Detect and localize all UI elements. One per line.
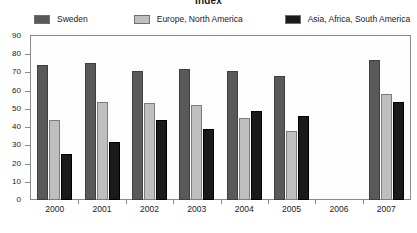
bar[interactable] bbox=[85, 63, 96, 200]
x-tick-label: 2004 bbox=[224, 204, 264, 214]
bar[interactable] bbox=[109, 142, 120, 200]
x-tick-label: 2003 bbox=[177, 204, 217, 214]
chart-legend: SwedenEurope, North AmericaAsia, Africa,… bbox=[30, 12, 410, 26]
y-tick-label: 10 bbox=[12, 178, 21, 186]
y-tick-label: 90 bbox=[12, 32, 21, 40]
bar[interactable] bbox=[156, 120, 167, 200]
bar[interactable] bbox=[251, 111, 262, 200]
y-tick-label: 50 bbox=[12, 105, 21, 113]
x-tick-mark bbox=[78, 200, 79, 204]
bar-group bbox=[31, 36, 78, 200]
plot-area bbox=[31, 36, 410, 200]
x-tick-label: 2006 bbox=[319, 204, 359, 214]
bar-group bbox=[126, 36, 173, 200]
bar[interactable] bbox=[144, 103, 155, 200]
bar[interactable] bbox=[37, 65, 48, 200]
bar-chart: Index SwedenEurope, North AmericaAsia, A… bbox=[0, 0, 417, 233]
bar[interactable] bbox=[298, 116, 309, 200]
bar[interactable] bbox=[274, 76, 285, 200]
bar[interactable] bbox=[97, 102, 108, 200]
y-tick-label: 30 bbox=[12, 141, 21, 149]
x-tick-mark bbox=[268, 200, 269, 204]
bar-group bbox=[78, 36, 125, 200]
y-tick-label: 0 bbox=[17, 196, 21, 204]
x-tick-label: 2002 bbox=[129, 204, 169, 214]
bar-group bbox=[363, 36, 410, 200]
legend-entry[interactable]: Asia, Africa, South America bbox=[285, 12, 411, 26]
y-tick-label: 20 bbox=[12, 160, 21, 168]
x-tick-mark bbox=[173, 200, 174, 204]
x-tick-mark bbox=[315, 200, 316, 204]
legend-label: Sweden bbox=[57, 14, 88, 24]
legend-entry[interactable]: Sweden bbox=[34, 12, 88, 26]
x-axis: 20002001200220032004200520062007 bbox=[31, 204, 410, 218]
y-tick-label: 80 bbox=[12, 50, 21, 58]
bar[interactable] bbox=[227, 71, 238, 200]
bar[interactable] bbox=[369, 60, 380, 200]
y-tick-label: 60 bbox=[12, 87, 21, 95]
bar[interactable] bbox=[49, 120, 60, 200]
legend-swatch-icon bbox=[285, 15, 301, 24]
bar[interactable] bbox=[239, 118, 250, 200]
bar-group bbox=[315, 36, 362, 200]
x-tick-mark bbox=[126, 200, 127, 204]
legend-label: Asia, Africa, South America bbox=[308, 14, 411, 24]
bar[interactable] bbox=[393, 102, 404, 200]
x-tick-label: 2007 bbox=[366, 204, 406, 214]
bar[interactable] bbox=[61, 154, 72, 200]
x-tick-label: 2000 bbox=[35, 204, 75, 214]
bar[interactable] bbox=[179, 69, 190, 200]
y-tick-label: 70 bbox=[12, 68, 21, 76]
x-tick-label: 2001 bbox=[82, 204, 122, 214]
legend-entry[interactable]: Europe, North America bbox=[134, 12, 243, 26]
bar-group bbox=[173, 36, 220, 200]
bar-group bbox=[221, 36, 268, 200]
bar[interactable] bbox=[381, 94, 392, 200]
bar-group bbox=[268, 36, 315, 200]
bar[interactable] bbox=[203, 129, 214, 200]
y-tick-label: 40 bbox=[12, 123, 21, 131]
legend-swatch-icon bbox=[34, 15, 50, 24]
x-tick-mark bbox=[221, 200, 222, 204]
x-tick-mark bbox=[363, 200, 364, 204]
bar[interactable] bbox=[132, 71, 143, 200]
bar[interactable] bbox=[286, 131, 297, 200]
legend-swatch-icon bbox=[134, 15, 150, 24]
chart-title: Index bbox=[0, 0, 417, 4]
x-tick-label: 2005 bbox=[272, 204, 312, 214]
legend-label: Europe, North America bbox=[157, 14, 243, 24]
bar[interactable] bbox=[191, 105, 202, 200]
y-axis: 0102030405060708090 bbox=[0, 35, 27, 201]
